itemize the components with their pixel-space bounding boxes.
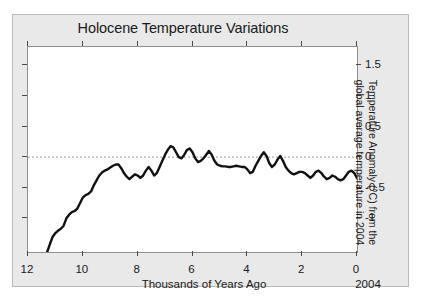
y-axis-tick xyxy=(22,217,27,218)
plot-area xyxy=(27,46,358,253)
y-axis-tick xyxy=(22,64,27,65)
x-axis-tick-label: 12 xyxy=(21,263,34,275)
x-axis-tick-label: 8 xyxy=(133,263,139,275)
y-axis-tick xyxy=(22,187,27,188)
x-axis-title: Thousands of Years Ago xyxy=(39,278,369,290)
x-axis-tick xyxy=(137,251,138,256)
x-axis-tick xyxy=(137,41,138,46)
x-axis-tick-label: 10 xyxy=(75,263,88,275)
x-axis-tick xyxy=(246,41,247,46)
y-axis-title-line-1: Temperature Anomaly (°C) from the xyxy=(366,60,379,265)
x-axis-tick-label: 4 xyxy=(243,263,249,275)
x-axis-tick xyxy=(356,41,357,46)
x-axis-tick xyxy=(82,41,83,46)
y-axis-tick xyxy=(22,126,27,127)
y-axis-tick xyxy=(22,95,27,96)
x-axis-tick xyxy=(82,251,83,256)
y-axis-tick xyxy=(22,156,27,157)
x-axis-tick xyxy=(246,251,247,256)
chart-title: Holocene Temperature Variations xyxy=(13,20,353,36)
y-axis-title-line-2: global average temperature in 2004 xyxy=(353,60,366,265)
temperature-anomaly-line xyxy=(47,146,357,252)
x-axis-tick xyxy=(192,251,193,256)
x-axis-tick-label: 6 xyxy=(188,263,194,275)
x-axis-tick xyxy=(27,251,28,256)
x-axis-tick xyxy=(27,41,28,46)
x-axis-tick xyxy=(192,41,193,46)
temperature-anomaly-plot xyxy=(28,47,357,252)
x-axis-epoch-note: 2004 xyxy=(355,278,381,290)
chart-figure: Holocene Temperature Variations 1.510.50… xyxy=(12,14,409,287)
x-axis-tick-label: 2 xyxy=(298,263,304,275)
x-axis-tick xyxy=(301,41,302,46)
y-axis-title: Temperature Anomaly (°C) from the global… xyxy=(351,60,379,265)
x-axis-tick xyxy=(301,251,302,256)
